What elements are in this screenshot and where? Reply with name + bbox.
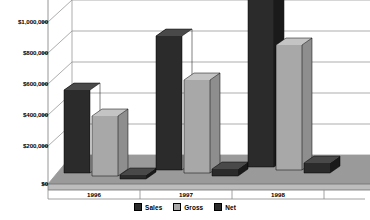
legend-label-net: Net xyxy=(225,204,236,211)
y-tick-label-400000: $400,000 xyxy=(23,111,48,118)
bar-side xyxy=(118,109,128,176)
legend-entry-gross[interactable]: Gross xyxy=(173,203,203,211)
legend-label-gross: Gross xyxy=(184,204,203,211)
legend-entry-sales[interactable]: Sales xyxy=(134,203,162,211)
y-tick-label-1000000: $1,000,000 xyxy=(18,18,48,25)
legend-swatch-sales-icon xyxy=(134,203,142,211)
x-tick-label-1998: 1998 xyxy=(232,191,324,198)
x-tick-label-1997: 1997 xyxy=(140,191,232,198)
y-tick-label-600000: $600,000 xyxy=(23,80,48,87)
bar-front xyxy=(304,163,330,173)
bars-layer xyxy=(0,0,370,220)
bar-1997-gross xyxy=(184,73,220,173)
x-tick-label-1996: 1996 xyxy=(48,191,140,198)
bar-side xyxy=(210,73,220,173)
plot-area: $1,000,000 $800,000 $600,000 $400,000 $2… xyxy=(0,0,370,220)
bar-front xyxy=(64,90,90,173)
bar-front xyxy=(276,45,302,170)
legend-swatch-net-icon xyxy=(214,203,222,211)
legend-swatch-gross-icon xyxy=(173,203,181,211)
bar-1998-gross xyxy=(276,38,312,170)
y-tick-label-0: $0 xyxy=(41,180,48,187)
bar-front xyxy=(212,169,238,176)
bar-front xyxy=(248,0,274,167)
bar-chart-3d: $1,000,000 $800,000 $600,000 $400,000 $2… xyxy=(0,0,370,220)
bar-side xyxy=(302,38,312,170)
bar-front xyxy=(156,36,182,170)
chart-legend: Sales Gross Net xyxy=(0,203,370,211)
y-axis-labels: $1,000,000 $800,000 $600,000 $400,000 $2… xyxy=(0,0,48,220)
legend-entry-net[interactable]: Net xyxy=(214,203,236,211)
bar-1996-gross xyxy=(92,109,128,176)
y-tick-label-200000: $200,000 xyxy=(23,142,48,149)
bar-front xyxy=(184,80,210,173)
bar-front xyxy=(120,175,146,179)
bar-front xyxy=(92,116,118,176)
y-tick-label-800000: $800,000 xyxy=(23,49,48,56)
legend-label-sales: Sales xyxy=(145,204,162,211)
